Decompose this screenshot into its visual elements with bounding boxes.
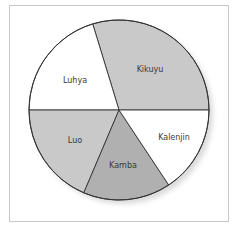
- label-luhya: Luhya: [63, 76, 87, 85]
- label-kalenjin: Kalenjin: [158, 133, 190, 142]
- pie-chart: Kikuyu Luhya Luo Kamba Kalenjin: [0, 0, 234, 229]
- label-kikuyu: Kikuyu: [137, 65, 164, 74]
- label-luo: Luo: [68, 136, 82, 145]
- label-kamba: Kamba: [109, 161, 137, 170]
